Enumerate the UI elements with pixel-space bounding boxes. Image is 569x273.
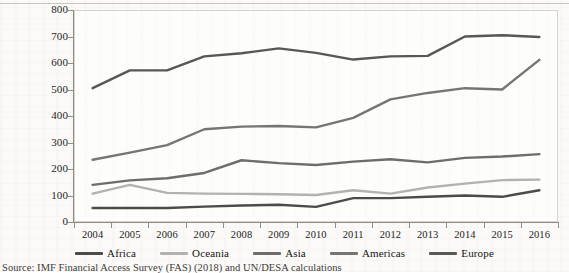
x-tick-mark	[484, 223, 485, 228]
x-tick-label: 2009	[259, 230, 299, 241]
x-tick-label: 2005	[110, 230, 150, 241]
plot-area	[74, 10, 558, 222]
x-tick-label: 2010	[296, 230, 336, 241]
x-tick-mark	[372, 223, 373, 228]
x-tick-label: 2008	[222, 230, 262, 241]
x-tick-label: 2004	[73, 230, 113, 241]
x-tick-mark	[446, 223, 447, 228]
x-tick-mark	[335, 223, 336, 228]
legend-item-africa[interactable]: Africa	[75, 248, 136, 259]
y-tick-mark	[68, 143, 74, 144]
y-tick-label: 500	[24, 84, 68, 95]
series-line-asia	[93, 154, 540, 185]
chart-legend: AfricaOceaniaAsiaAmericasEurope	[0, 248, 569, 259]
x-tick-mark	[74, 223, 75, 228]
series-line-americas	[93, 60, 540, 160]
legend-label: Europe	[461, 248, 494, 259]
x-tick-label: 2012	[370, 230, 410, 241]
y-tick-mark	[68, 116, 74, 117]
y-tick-mark	[68, 10, 74, 11]
y-tick-mark	[68, 169, 74, 170]
y-tick-label: 300	[24, 137, 68, 148]
y-tick-mark	[68, 37, 74, 38]
x-tick-mark	[297, 223, 298, 228]
x-tick-label: 2013	[408, 230, 448, 241]
x-tick-label: 2014	[445, 230, 485, 241]
legend-item-americas[interactable]: Americas	[330, 248, 405, 259]
x-axis-line	[73, 222, 559, 223]
y-tick-label: 800	[24, 4, 68, 15]
y-tick-label: 600	[24, 57, 68, 68]
legend-label: Oceania	[192, 248, 229, 259]
series-line-africa	[93, 190, 540, 208]
y-tick-label: 0	[24, 216, 68, 227]
x-tick-label: 2011	[333, 230, 373, 241]
x-tick-label: 2006	[147, 230, 187, 241]
x-tick-mark	[148, 223, 149, 228]
legend-swatch-icon	[330, 252, 358, 255]
y-tick-mark	[68, 63, 74, 64]
legend-item-europe[interactable]: Europe	[429, 248, 494, 259]
legend-swatch-icon	[75, 252, 103, 255]
y-tick-mark	[68, 196, 74, 197]
series-line-oceania	[93, 180, 540, 195]
y-tick-label: 700	[24, 31, 68, 42]
x-tick-mark	[558, 223, 559, 228]
legend-swatch-icon	[160, 252, 188, 255]
x-tick-label: 2007	[184, 230, 224, 241]
legend-swatch-icon	[429, 252, 457, 255]
legend-label: Africa	[107, 248, 136, 259]
legend-item-oceania[interactable]: Oceania	[160, 248, 229, 259]
legend-swatch-icon	[253, 252, 281, 255]
y-axis-tick-labels: 8007006005004003002001000	[24, 0, 68, 232]
legend-label: Americas	[362, 248, 405, 259]
series-line-europe	[93, 35, 540, 88]
x-tick-label: 2016	[519, 230, 559, 241]
x-tick-mark	[223, 223, 224, 228]
x-tick-mark	[521, 223, 522, 228]
x-tick-mark	[260, 223, 261, 228]
x-tick-label: 2015	[482, 230, 522, 241]
y-tick-label: 100	[24, 190, 68, 201]
y-tick-label: 200	[24, 163, 68, 174]
x-tick-mark	[111, 223, 112, 228]
x-axis-tick-labels: 2004200520062007200820092010201120122013…	[0, 230, 569, 246]
source-note: Source: IMF Financial Access Survey (FAS…	[2, 262, 342, 273]
x-tick-mark	[409, 223, 410, 228]
legend-label: Asia	[285, 248, 306, 259]
y-tick-label: 400	[24, 110, 68, 121]
x-tick-mark	[186, 223, 187, 228]
legend-item-asia[interactable]: Asia	[253, 248, 306, 259]
y-tick-mark	[68, 90, 74, 91]
